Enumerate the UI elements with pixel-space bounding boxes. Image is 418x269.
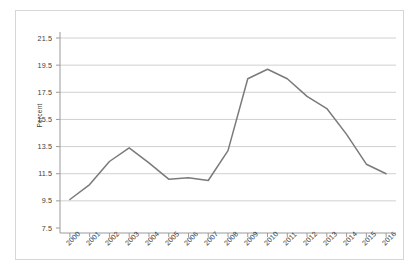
- y-tick-label: 7.5: [26, 224, 52, 233]
- y-tick-label: 17.5: [26, 88, 52, 97]
- gridlines: [60, 38, 396, 201]
- line-chart-figure: Percent 21.519.517.515.513.511.59.57.5 2…: [0, 0, 418, 269]
- y-tick-label: 9.5: [26, 196, 52, 205]
- y-tick-label: 13.5: [26, 142, 52, 151]
- y-tick-label: 21.5: [26, 34, 52, 43]
- plot-area: [0, 0, 418, 269]
- y-axis-ticks: [56, 38, 60, 228]
- y-tick-label: 19.5: [26, 61, 52, 70]
- data-series-line: [70, 69, 386, 199]
- y-tick-label: 11.5: [26, 169, 52, 178]
- y-tick-label: 15.5: [26, 115, 52, 124]
